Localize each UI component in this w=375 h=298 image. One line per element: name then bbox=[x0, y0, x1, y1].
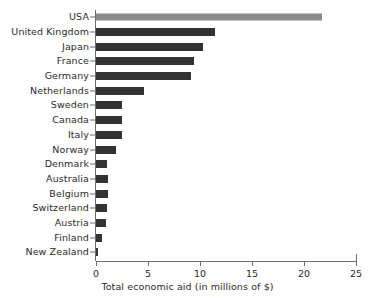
bar-row: Australia bbox=[0, 172, 375, 187]
category-tick bbox=[90, 46, 95, 47]
bar bbox=[96, 131, 122, 139]
bar-row: Norway bbox=[0, 142, 375, 157]
category-tick bbox=[90, 149, 95, 150]
category-label: Sweden bbox=[51, 100, 89, 110]
bar-row: United Kingdom bbox=[0, 25, 375, 40]
category-tick bbox=[90, 32, 95, 33]
bar-row: New Zealand bbox=[0, 245, 375, 260]
bar-row: Austria bbox=[0, 216, 375, 231]
x-tick-label: 10 bbox=[194, 268, 206, 279]
bar bbox=[96, 116, 122, 124]
bar-row: Switzerland bbox=[0, 201, 375, 216]
x-tick-label: 15 bbox=[246, 268, 258, 279]
bar-row: Italy bbox=[0, 128, 375, 143]
bar bbox=[96, 248, 98, 256]
x-tick-label: 0 bbox=[93, 268, 99, 279]
category-label: Austria bbox=[55, 218, 89, 228]
category-label: New Zealand bbox=[25, 247, 89, 257]
bar bbox=[96, 101, 122, 109]
bar bbox=[96, 234, 102, 242]
category-tick bbox=[90, 222, 95, 223]
x-tick-mark bbox=[200, 261, 201, 266]
bar-row: Sweden bbox=[0, 98, 375, 113]
bar-row: Finland bbox=[0, 230, 375, 245]
x-tick-mark bbox=[252, 261, 253, 266]
category-tick bbox=[90, 105, 95, 106]
category-label: Australia bbox=[46, 174, 89, 184]
x-tick-label: 20 bbox=[298, 268, 310, 279]
x-tick-mark bbox=[356, 261, 357, 266]
bar bbox=[96, 190, 108, 198]
category-tick bbox=[90, 17, 95, 18]
bar-row: Belgium bbox=[0, 186, 375, 201]
bar-row: Germany bbox=[0, 69, 375, 84]
bar bbox=[96, 219, 106, 227]
category-label: France bbox=[57, 56, 89, 66]
bar-row: Japan bbox=[0, 39, 375, 54]
category-tick bbox=[90, 164, 95, 165]
category-label: Denmark bbox=[45, 159, 89, 169]
category-label: Italy bbox=[68, 130, 89, 140]
category-label: Finland bbox=[54, 233, 89, 243]
bar bbox=[96, 204, 107, 212]
category-tick bbox=[90, 178, 95, 179]
x-tick-mark bbox=[96, 261, 97, 266]
bar bbox=[96, 28, 215, 36]
bar bbox=[96, 160, 107, 168]
category-label: Japan bbox=[62, 42, 89, 52]
category-label: Belgium bbox=[49, 189, 89, 199]
category-tick bbox=[90, 237, 95, 238]
bar bbox=[96, 43, 203, 51]
category-label: Switzerland bbox=[32, 203, 89, 213]
category-tick bbox=[90, 252, 95, 253]
category-tick bbox=[90, 208, 95, 209]
category-label: Netherlands bbox=[30, 86, 89, 96]
category-tick bbox=[90, 61, 95, 62]
category-label: USA bbox=[69, 12, 89, 22]
category-tick bbox=[90, 120, 95, 121]
bar-row: Netherlands bbox=[0, 83, 375, 98]
category-tick bbox=[90, 76, 95, 77]
category-label: United Kingdom bbox=[11, 27, 89, 37]
category-label: Germany bbox=[45, 71, 89, 81]
bar bbox=[96, 57, 194, 65]
x-tick-label: 25 bbox=[350, 268, 362, 279]
x-tick-label: 5 bbox=[145, 268, 151, 279]
bar-chart: USAUnited KingdomJapanFranceGermanyNethe… bbox=[0, 0, 375, 298]
category-tick bbox=[90, 193, 95, 194]
bar bbox=[96, 175, 108, 183]
category-tick bbox=[90, 134, 95, 135]
bar-row: Denmark bbox=[0, 157, 375, 172]
bar bbox=[96, 87, 144, 95]
bar-row: USA bbox=[0, 10, 375, 25]
category-label: Norway bbox=[52, 145, 89, 155]
bar bbox=[96, 14, 322, 21]
bar bbox=[96, 72, 191, 80]
x-tick-mark bbox=[304, 261, 305, 266]
bar-rows: USAUnited KingdomJapanFranceGermanyNethe… bbox=[0, 10, 375, 261]
bar bbox=[96, 146, 116, 154]
x-axis-title: Total economic aid (in millions of $) bbox=[0, 281, 375, 292]
category-tick bbox=[90, 90, 95, 91]
bar-row: Canada bbox=[0, 113, 375, 128]
x-tick-mark bbox=[148, 261, 149, 266]
category-label: Canada bbox=[52, 115, 89, 125]
bar-row: France bbox=[0, 54, 375, 69]
